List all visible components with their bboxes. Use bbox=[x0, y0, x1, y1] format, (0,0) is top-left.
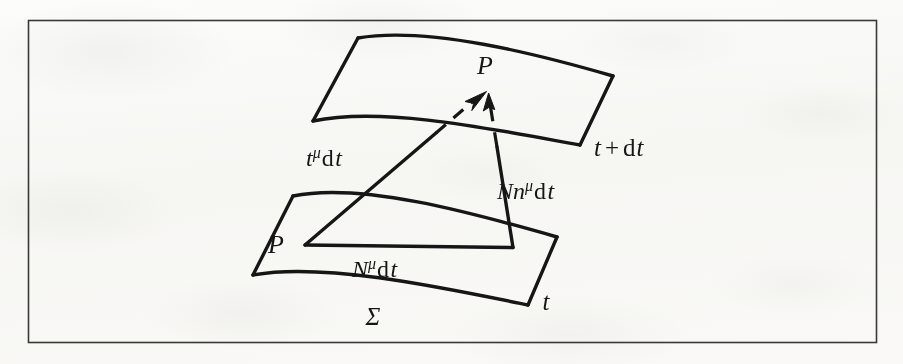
label-slice-upper-dt: t bbox=[637, 134, 645, 161]
upper-hypersurface bbox=[313, 35, 613, 145]
label-vector-normal: Nnμdt bbox=[496, 177, 556, 204]
shift-vector-line bbox=[305, 245, 513, 248]
upper-surface-left-edge bbox=[313, 38, 358, 121]
normal-vector-arrowhead bbox=[483, 93, 495, 111]
label-point-lower: P bbox=[267, 230, 284, 259]
label-time-dt: t bbox=[335, 145, 343, 171]
label-point-upper: P bbox=[476, 51, 493, 80]
label-normal-n: n bbox=[513, 178, 525, 204]
label-slice-upper-d: d bbox=[623, 134, 636, 161]
label-surface-sigma: Σ bbox=[365, 303, 381, 330]
upper-surface-bottom-edge bbox=[313, 116, 580, 145]
label-time-mu: μ bbox=[312, 144, 321, 162]
label-slice-upper-t: t bbox=[594, 134, 602, 161]
label-slice-upper: t+dt bbox=[594, 134, 645, 161]
time-vector-line-dashed bbox=[436, 102, 472, 133]
time-vector-arrowhead bbox=[465, 92, 487, 111]
label-normal-d: d bbox=[534, 178, 546, 204]
label-vector-time: tμdt bbox=[306, 144, 343, 171]
svg-text:Nnμdt: Nnμdt bbox=[496, 177, 556, 204]
label-slice-upper-plus: + bbox=[605, 134, 619, 161]
label-shift-dt: t bbox=[391, 256, 399, 282]
normal-vector-line-dashed bbox=[490, 104, 497, 147]
label-slice-lower: t bbox=[543, 288, 551, 315]
label-time-d: d bbox=[322, 145, 334, 171]
label-shift-mu: μ bbox=[367, 255, 376, 273]
foliation-diagram-svg: P t+dt tμdt Nnμdt P Nμdt Σ bbox=[0, 0, 903, 364]
figure-frame bbox=[29, 21, 877, 343]
svg-text:t+dt: t+dt bbox=[594, 134, 645, 161]
label-normal-dt: t bbox=[548, 178, 556, 204]
figure-root: P t+dt tμdt Nnμdt P Nμdt Σ bbox=[0, 0, 903, 364]
svg-text:tμdt: tμdt bbox=[306, 144, 343, 171]
label-shift-d: d bbox=[377, 256, 389, 282]
label-normal-mu: μ bbox=[524, 177, 533, 195]
